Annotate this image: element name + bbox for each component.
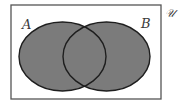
set-a-label: A xyxy=(21,17,31,32)
venn-diagram: A B 𝒰 xyxy=(0,0,185,104)
venn-diagram-svg: A B 𝒰 xyxy=(0,0,185,104)
universal-set-label: 𝒰 xyxy=(165,7,178,20)
set-b-label: B xyxy=(140,16,151,31)
